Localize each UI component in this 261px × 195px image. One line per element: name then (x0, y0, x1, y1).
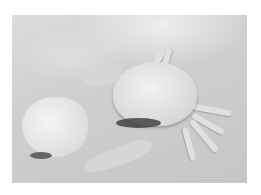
crab-leg (182, 127, 197, 161)
moult-shadow (30, 152, 52, 159)
crab-carapace (113, 62, 197, 126)
crab-claw (83, 136, 155, 177)
crab-photo (12, 15, 247, 183)
crab-underside (116, 118, 161, 128)
moulted-shell (22, 97, 88, 157)
